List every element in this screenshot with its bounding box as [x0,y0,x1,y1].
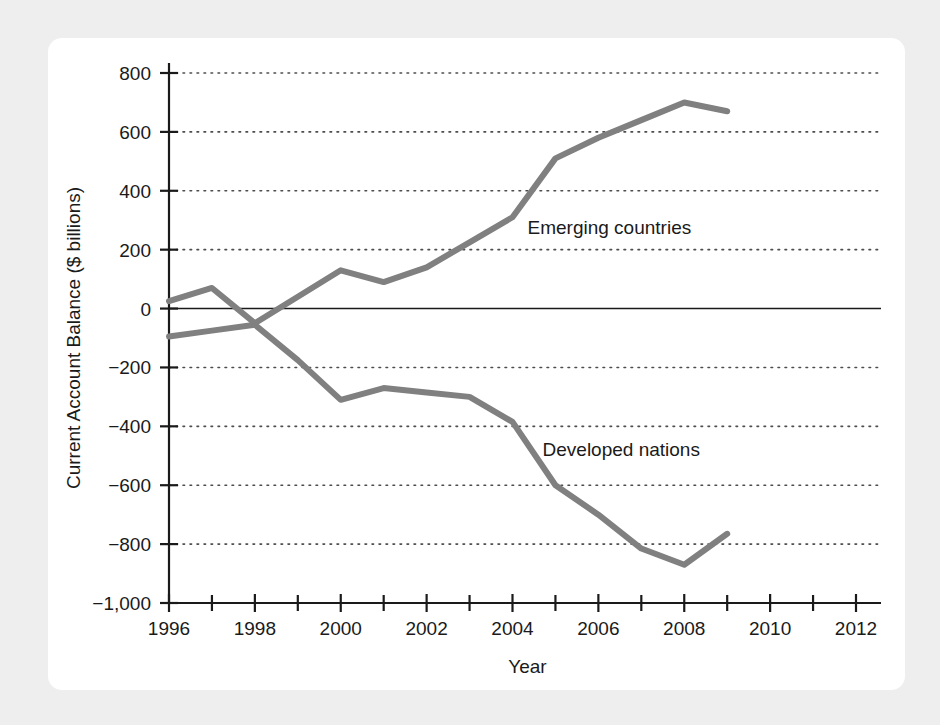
x-tick-labels: 199619982000200220042006200820102012 [148,618,877,639]
y-tick-labels: −1,000−800−600−400−2000200400600800 [92,63,151,614]
y-tick-label: 200 [119,240,151,261]
y-tick-label: −800 [108,534,151,555]
y-tick-label: −400 [108,416,151,437]
x-tick-label: 2008 [663,618,705,639]
y-tick-label: −600 [108,475,151,496]
y-tick-label: 600 [119,122,151,143]
x-tick-label: 2012 [835,618,877,639]
series-line [169,102,727,323]
x-tick-label: 2004 [491,618,534,639]
x-tick-label: 2006 [577,618,619,639]
series-label: Developed nations [543,439,700,460]
x-tick-label: 2002 [405,618,447,639]
x-axis-title: Year [508,656,547,677]
line-chart: −1,000−800−600−400−2000200400600800 1996… [0,0,940,725]
chart-container: −1,000−800−600−400−2000200400600800 1996… [0,0,940,725]
tick-marks [160,73,856,612]
series-label: Emerging countries [528,217,692,238]
y-tick-label: 0 [140,299,151,320]
y-tick-label: 400 [119,181,151,202]
y-axis-title: Current Account Balance ($ billions) [63,187,84,489]
series-annotations: Emerging countriesDeveloped nations [528,217,700,460]
y-tick-label: 800 [119,63,151,84]
x-tick-label: 2000 [320,618,362,639]
x-tick-label: 2010 [749,618,791,639]
axes [169,63,881,603]
y-tick-label: −200 [108,357,151,378]
y-tick-label: −1,000 [92,593,151,614]
data-series [169,102,727,564]
x-tick-label: 1996 [148,618,190,639]
x-tick-label: 1998 [234,618,276,639]
